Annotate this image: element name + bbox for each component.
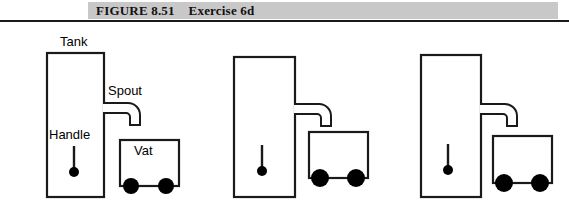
tank-body: [234, 57, 295, 197]
vat-wheel-2: [347, 169, 365, 187]
vat-wheel-1: [123, 178, 139, 194]
label-spout: Spout: [108, 84, 142, 98]
spout-pipe: [480, 104, 517, 126]
handle-knob[interactable]: [443, 165, 453, 175]
vat-wheel-1: [495, 174, 513, 192]
label-vat: Vat: [134, 144, 153, 158]
figure-header-rule: [0, 20, 569, 22]
tank-body: [421, 55, 481, 197]
panel-1-labeled: [0, 0, 569, 213]
label-tank: Tank: [60, 35, 87, 49]
panel-2: [0, 0, 569, 213]
vat-wheel-2: [158, 178, 174, 194]
tank-body: [47, 53, 104, 197]
panel-3: [0, 0, 569, 213]
vat-body: [493, 136, 552, 183]
spout-pipe: [103, 103, 140, 125]
vat-wheel-2: [531, 174, 549, 192]
vat-wheel-1: [311, 169, 329, 187]
figure-page: FIGURE 8.51 Exercise 6d Tank Spout Handl…: [0, 0, 569, 213]
label-handle: Handle: [49, 128, 90, 142]
vat-body: [309, 132, 368, 178]
figure-caption: FIGURE 8.51 Exercise 6d: [96, 3, 254, 18]
handle-knob[interactable]: [257, 166, 267, 176]
spout-pipe: [294, 104, 331, 126]
handle-knob[interactable]: [69, 167, 79, 177]
